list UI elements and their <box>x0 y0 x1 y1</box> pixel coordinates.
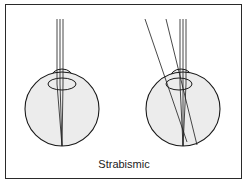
figure-caption: Strabismic <box>0 158 248 170</box>
strabismus-diagram <box>0 0 248 184</box>
right-eye <box>145 19 220 146</box>
left-eye <box>25 19 99 146</box>
